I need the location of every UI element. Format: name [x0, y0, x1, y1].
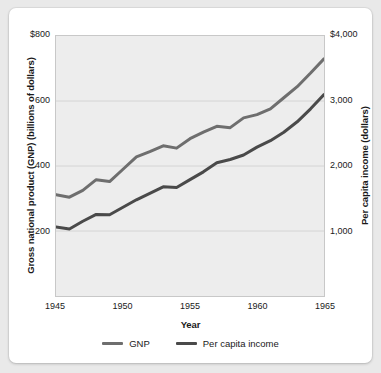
plot-area [55, 35, 325, 297]
plot-svg [56, 36, 324, 296]
x-axis-title: Year [9, 319, 372, 330]
x-axis-tick-label: 1955 [160, 301, 220, 311]
legend-swatch-icon [102, 342, 123, 346]
legend-label: Per capita income [203, 338, 279, 349]
y-axis-right-tick-label: 3,000 [330, 95, 381, 105]
series-line-gnp [56, 59, 324, 197]
legend-item[interactable]: GNP [102, 338, 150, 349]
x-axis-tick-label: 1965 [295, 301, 355, 311]
series-line-per-capita-income [56, 95, 324, 230]
x-axis-tick-label: 1960 [228, 301, 288, 311]
legend-swatch-icon [176, 342, 197, 346]
y-axis-left-tick-label: $800 [0, 29, 50, 39]
legend-label: GNP [129, 338, 150, 349]
y-axis-right-tick-label: $4,000 [330, 29, 381, 39]
x-axis-tick-label: 1950 [93, 301, 153, 311]
y-axis-left-tick-label: 600 [0, 95, 50, 105]
legend-item[interactable]: Per capita income [176, 338, 279, 349]
x-axis-tick-label: 1945 [25, 301, 85, 311]
chart-legend: GNPPer capita income [9, 338, 372, 349]
y-axis-right-tick-label: 2,000 [330, 160, 381, 170]
line-chart-figure: Gross national product (GNP) (billions o… [9, 8, 372, 363]
chart-card: Gross national product (GNP) (billions o… [9, 8, 372, 363]
y-axis-left-tick-label: 200 [0, 226, 50, 236]
y-axis-left-tick-label: 400 [0, 160, 50, 170]
y-axis-right-tick-label: 1,000 [330, 226, 381, 236]
